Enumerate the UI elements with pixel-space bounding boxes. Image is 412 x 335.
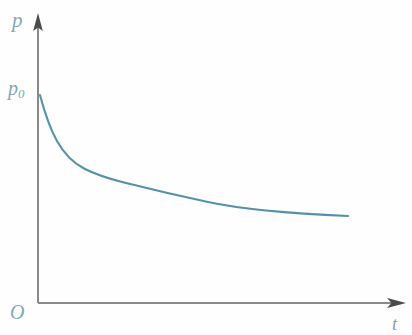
y-axis-label: p [12, 10, 23, 31]
x-axis-label: t [392, 314, 397, 333]
graph-canvas [0, 0, 412, 335]
initial-value-subscript: 0 [18, 86, 25, 101]
decay-curve [40, 95, 348, 216]
origin-label: O [10, 302, 24, 322]
initial-value-symbol: p [8, 77, 18, 99]
initial-value-label: p0 [8, 78, 25, 98]
decay-graph-figure: p p0 O t [0, 0, 412, 335]
